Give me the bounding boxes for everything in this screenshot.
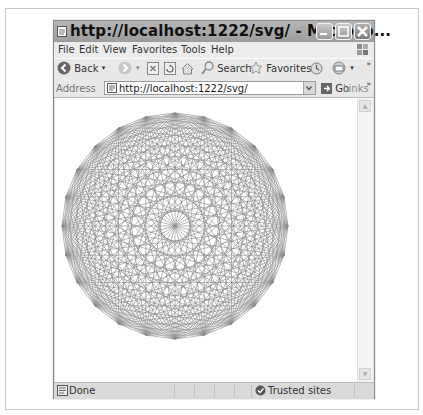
address-label: Address	[56, 83, 96, 94]
complete-graph-drawing	[55, 98, 357, 382]
favorites-label: Favorites	[266, 63, 311, 74]
minimize-button[interactable]	[316, 23, 333, 40]
page-content	[55, 98, 357, 382]
page-icon	[57, 26, 67, 37]
scroll-down-button[interactable]: ▼	[359, 368, 371, 380]
menu-file[interactable]: File	[58, 44, 75, 55]
home-button[interactable]	[181, 62, 194, 75]
maximize-button[interactable]	[335, 23, 352, 40]
forward-dropdown-icon[interactable]: ▾	[136, 64, 140, 72]
menu-view[interactable]: View	[103, 44, 127, 55]
search-label: Search	[217, 63, 251, 74]
mail-dropdown-icon[interactable]: ▾	[350, 64, 354, 72]
search-button[interactable]: Search	[201, 61, 252, 75]
address-dropdown-button[interactable]	[303, 82, 315, 94]
security-zone: Trusted sites	[268, 385, 331, 396]
address-bar: Address http://localhost:1222/svg/ Go Li…	[54, 80, 374, 98]
menu-edit[interactable]: Edit	[79, 44, 98, 55]
back-dropdown-icon[interactable]: ▾	[102, 64, 106, 72]
links-button[interactable]: Links	[343, 83, 369, 94]
scroll-up-button[interactable]: ▲	[359, 100, 371, 112]
windows-logo-icon	[356, 43, 370, 56]
stop-button[interactable]	[147, 62, 159, 75]
menu-favorites[interactable]: Favorites	[132, 44, 177, 55]
menu-tools[interactable]: Tools	[181, 44, 206, 55]
title-bar[interactable]: http://localhost:1222/svg/ - Microso...	[54, 21, 374, 42]
menu-help[interactable]: Help	[211, 44, 234, 55]
forward-button[interactable]	[118, 61, 132, 75]
links-overflow-chevron[interactable]: »	[366, 80, 371, 88]
trusted-sites-icon	[255, 385, 266, 396]
page-icon	[107, 83, 117, 93]
back-button[interactable]: Back ▾	[57, 61, 105, 75]
favorites-button[interactable]: Favorites	[249, 61, 311, 75]
page-done-icon	[57, 385, 68, 396]
status-bar: Done Trusted sites	[54, 382, 374, 399]
close-button[interactable]	[354, 23, 371, 40]
address-input[interactable]: http://localhost:1222/svg/	[104, 81, 316, 95]
toolbar-overflow-chevron[interactable]: »	[366, 60, 371, 68]
vertical-scrollbar[interactable]: ▲ ▼	[357, 98, 373, 382]
mail-button[interactable]: ▾	[332, 61, 354, 75]
browser-window: http://localhost:1222/svg/ - Microso... …	[53, 20, 375, 399]
toolbar: Back ▾ ▾ Search Favorites ▾	[54, 58, 374, 81]
menu-bar: File Edit View Favorites Tools Help	[54, 42, 374, 58]
refresh-button[interactable]	[164, 62, 176, 75]
address-url: http://localhost:1222/svg/	[119, 83, 248, 94]
status-text: Done	[69, 385, 95, 396]
back-label: Back	[74, 63, 98, 74]
history-button[interactable]	[310, 62, 323, 75]
